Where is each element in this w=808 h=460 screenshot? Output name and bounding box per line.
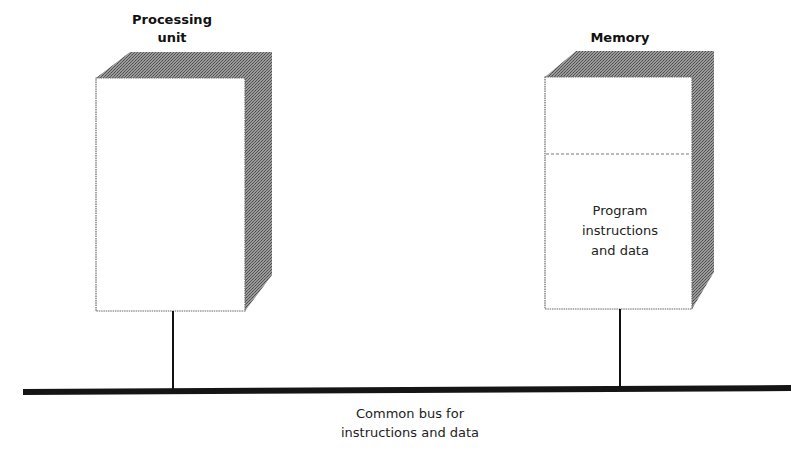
- memory-front-face: [545, 77, 692, 309]
- memory-content-line3: and data: [560, 241, 680, 261]
- common-bus: [23, 385, 791, 395]
- diagram-canvas: [0, 0, 808, 460]
- memory-content-line1: Program: [560, 201, 680, 221]
- memory-title: Memory: [560, 29, 680, 47]
- bus-label-line1: Common bus for: [300, 404, 520, 423]
- memory-content-line2: instructions: [560, 221, 680, 241]
- bus-label: Common bus for instructions and data: [300, 404, 520, 442]
- processing-unit-front-face: [96, 78, 245, 311]
- processing-unit-title-line1: Processing: [112, 11, 232, 29]
- processing-unit-box: [96, 52, 272, 311]
- memory-content-label: Program instructions and data: [560, 201, 680, 261]
- memory-title-text: Memory: [560, 29, 680, 47]
- bus-label-line2: instructions and data: [300, 423, 520, 442]
- memory-box: [545, 51, 714, 309]
- processing-unit-title-line2: unit: [112, 29, 232, 47]
- processing-unit-title: Processing unit: [112, 11, 232, 47]
